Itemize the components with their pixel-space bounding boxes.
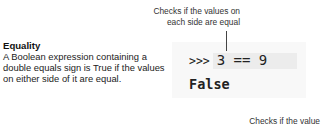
definition-body: A Boolean expression containing a double… xyxy=(3,51,173,84)
annotation-line: each side are equal xyxy=(140,17,240,28)
definition-block: Equality A Boolean expression containing… xyxy=(3,40,173,84)
definition-line: A Boolean expression containing a xyxy=(3,51,173,62)
annotation-line: Checks if the value xyxy=(232,116,320,127)
definition-title: Equality xyxy=(3,40,173,51)
code-input-line: >>> 3 == 9 xyxy=(189,51,267,70)
definition-line: on either side of it are equal. xyxy=(3,73,173,84)
code-output-line: False xyxy=(189,75,230,93)
annotation-line: Checks if the values on xyxy=(140,6,240,17)
prompt-symbol: >>> xyxy=(189,54,210,68)
annotation-leader-line xyxy=(226,31,227,51)
annotation-bottom: Checks if the value xyxy=(232,116,320,127)
code-expression: 3 == 9 xyxy=(217,52,268,68)
definition-line: double equals sign is True if the values xyxy=(3,62,173,73)
annotation-equality-operator: Checks if the values on each side are eq… xyxy=(140,6,240,27)
